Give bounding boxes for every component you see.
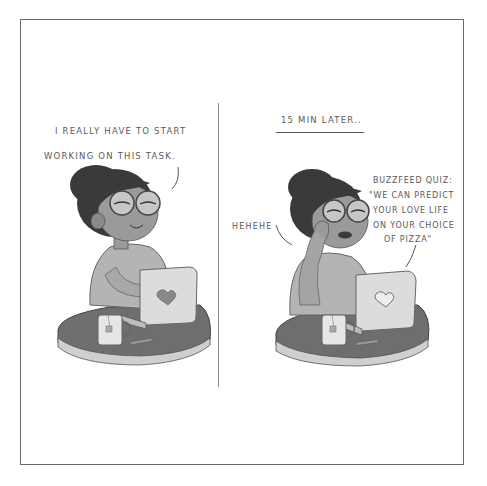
- time-caption: 15 MIN LATER..: [281, 115, 362, 125]
- caption-underline: [276, 132, 364, 133]
- mouth-icon: [338, 232, 352, 239]
- left-illustration: [50, 155, 220, 375]
- left-speech-line-1: I REALLY HAVE TO START: [55, 125, 186, 138]
- laugh-tail-icon: [276, 225, 292, 245]
- speech-tail-icon: [406, 245, 416, 267]
- laugh-text: HEHEHE: [232, 222, 272, 231]
- right-illustration: [270, 165, 435, 375]
- speech-tail-icon: [172, 167, 178, 189]
